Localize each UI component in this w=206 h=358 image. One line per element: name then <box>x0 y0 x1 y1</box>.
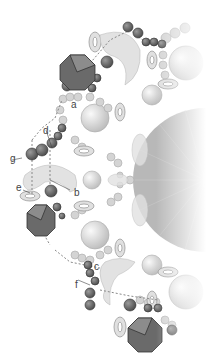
label-d: d <box>43 126 49 136</box>
label-e: e <box>16 183 22 193</box>
beading-diagram: a b c d e f g <box>0 0 206 358</box>
label-c: c <box>94 262 99 272</box>
label-f: f <box>75 280 78 290</box>
label-a: a <box>71 100 77 110</box>
label-g: g <box>10 154 16 164</box>
right-fade <box>156 0 206 358</box>
label-b: b <box>74 188 80 198</box>
